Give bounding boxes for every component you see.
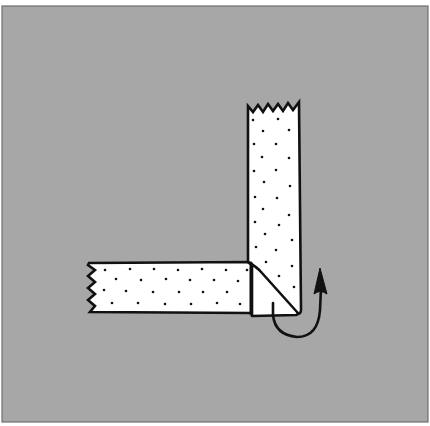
- figure-canvas: [0, 0, 430, 426]
- horizontal-strip: [88, 262, 251, 313]
- background-panel: [2, 6, 428, 422]
